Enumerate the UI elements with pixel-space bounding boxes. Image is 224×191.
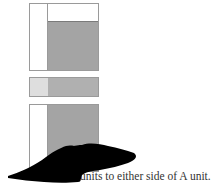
redaction-blob [0, 0, 224, 191]
